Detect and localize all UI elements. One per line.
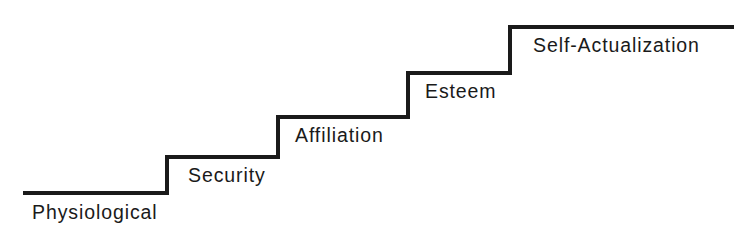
step-label-affiliation: Affiliation — [295, 125, 384, 145]
step-label-physiological: Physiological — [32, 202, 158, 222]
step-label-security: Security — [188, 165, 266, 185]
maslow-staircase-figure: Physiological Security Affiliation Estee… — [0, 0, 742, 243]
step-label-esteem: Esteem — [425, 81, 497, 101]
step-label-self-actualization: Self-Actualization — [533, 35, 700, 55]
